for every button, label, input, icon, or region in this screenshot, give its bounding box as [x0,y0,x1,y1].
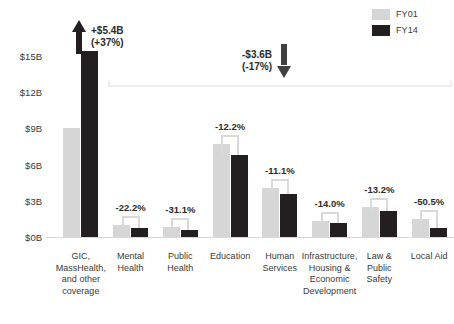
y-tick-label: $3B [25,195,42,206]
x-axis-label-line: Safety [349,274,411,286]
x-axis-label-line: Local Aid [398,251,454,263]
data-label: -31.1% [165,204,195,215]
x-axis-label-line: Health [150,263,212,275]
label-connector [420,210,438,228]
reduction-span-bracket [108,80,453,87]
bar-fy01 [63,128,80,237]
x-axis-label: Local Aid [398,251,454,263]
bar-fy14 [330,223,347,237]
label-connector [321,212,339,223]
data-label: -11.1% [265,165,295,176]
bar-fy14 [131,228,148,237]
x-axis-label-line: coverage [50,286,112,298]
bar-fy14 [430,228,447,237]
increase-callout: +$5.4B(+37%) [72,20,124,54]
y-tick-label: $12B [20,87,42,98]
data-label: -13.2% [364,184,394,195]
y-axis: $15B$12B$9B$6B$3B$0B [0,0,42,324]
callout-line-2: (+37%) [91,37,124,49]
plot-area: GIC,MassHealth,and othercoverage-22.2%Me… [46,0,454,324]
x-axis-label-line: and other [50,274,112,286]
label-connector [122,216,140,228]
bar-fy14 [231,155,248,237]
arrow-up-icon [72,20,86,54]
callout-text: +$5.4B(+37%) [91,25,124,49]
bar-group [63,51,98,237]
bar-group [213,144,248,237]
bar-fy14 [280,194,297,237]
bar-fy01 [262,188,279,237]
bar-group [312,221,347,237]
label-connector [271,179,289,193]
y-tick-label: $6B [25,159,42,170]
bar-fy14 [81,51,98,237]
bar-fy01 [213,144,230,237]
label-connector [370,198,388,211]
bar-group [262,188,297,237]
y-tick-label: $15B [20,51,42,62]
bar-fy01 [362,207,379,237]
x-axis-baseline [46,237,454,238]
arrow-down-icon [277,44,291,78]
callout-line-1: -$3.6B [242,49,272,61]
label-connector [171,218,189,230]
label-connector [221,135,239,155]
x-axis-label-line: Public [349,263,411,275]
callout-line-1: +$5.4B [91,25,124,37]
data-label: -22.2% [116,202,146,213]
bar-chart: FY01 FY14 $15B$12B$9B$6B$3B$0B GIC,MassH… [0,0,454,324]
data-label: -50.5% [414,196,444,207]
bar-fy01 [312,221,329,237]
y-tick-label: $0B [25,232,42,243]
y-tick-label: $9B [25,123,42,134]
callout-line-2: (-17%) [242,61,272,73]
bar-fy14 [181,230,198,237]
data-label: -12.2% [215,121,245,132]
bar-fy14 [380,211,397,237]
bar-group [362,207,397,237]
data-label: -14.0% [315,198,345,209]
decrease-callout: -$3.6B(-17%) [242,44,291,78]
callout-text: -$3.6B(-17%) [242,49,272,73]
x-axis-label-line: Development [299,286,361,298]
